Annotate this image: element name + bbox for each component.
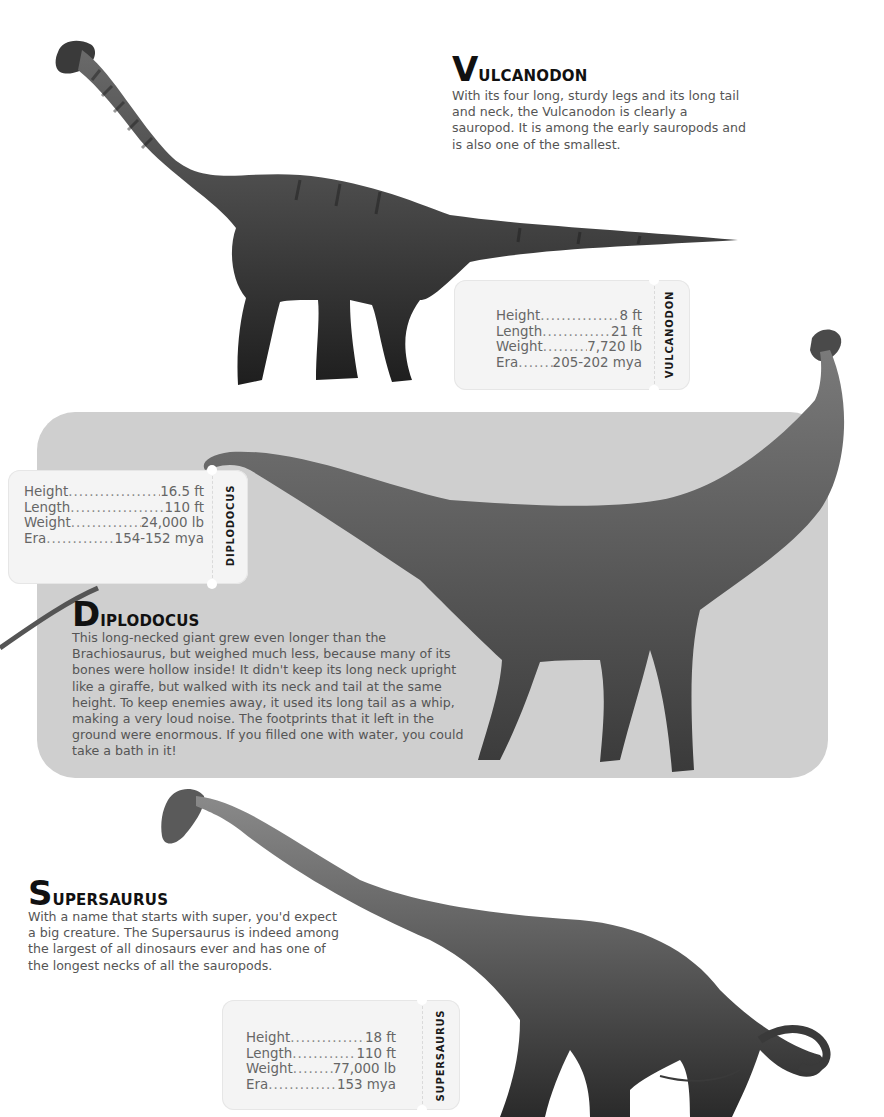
supersaurus-title: SUPERSAURUS — [28, 876, 168, 910]
stat-row-era: Era154-152 mya — [24, 531, 204, 547]
vulcanodon-card-label: VULCANODON — [664, 290, 675, 380]
title-rest: UPERSAURUS — [53, 891, 169, 909]
vulcanodon-title: VULCANODON — [452, 52, 588, 86]
title-rest: IPLODOCUS — [100, 612, 199, 630]
vulcanodon-stats-card: Height8 ft Length21 ft Weight7,720 lb Er… — [454, 280, 690, 390]
title-initial: V — [452, 49, 477, 89]
stat-row-weight: Weight7,720 lb — [496, 339, 642, 355]
supersaurus-stats-card: Height18 ft Length110 ft Weight77,000 lb… — [222, 1000, 460, 1110]
stat-row-length: Length110 ft — [246, 1046, 396, 1062]
stat-row-length: Length110 ft — [24, 500, 204, 516]
stat-row-length: Length21 ft — [496, 324, 642, 340]
diplodocus-card-label: DIPLODOCUS — [225, 481, 236, 571]
title-initial: S — [28, 873, 52, 913]
stat-row-weight: Weight77,000 lb — [246, 1061, 396, 1077]
stat-row-era: Era205-202 mya — [496, 355, 642, 371]
stat-row-height: Height16.5 ft — [24, 484, 204, 500]
title-initial: D — [72, 594, 99, 634]
stat-row-height: Height18 ft — [246, 1030, 396, 1046]
stat-row-weight: Weight24,000 lb — [24, 515, 204, 531]
supersaurus-card-label: SUPERSAURUS — [435, 1008, 446, 1104]
diplodocus-description: This long-necked giant grew even longer … — [72, 630, 464, 760]
stat-row-era: Era153 mya — [246, 1077, 396, 1093]
supersaurus-description: With a name that starts with super, you'… — [28, 909, 340, 974]
vulcanodon-description: With its four long, sturdy legs and its … — [452, 88, 752, 153]
title-rest: ULCANODON — [478, 67, 587, 85]
stat-row-height: Height8 ft — [496, 308, 642, 324]
diplodocus-stats-card: Height16.5 ft Length110 ft Weight24,000 … — [8, 470, 248, 584]
diplodocus-title: DIPLODOCUS — [72, 597, 200, 631]
